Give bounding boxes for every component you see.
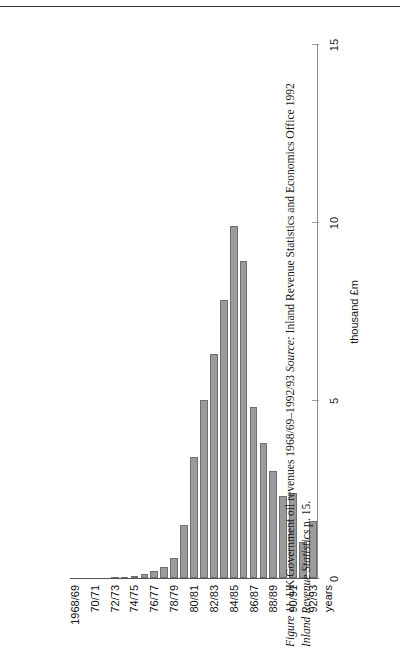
category-label-70-71: 70/71 xyxy=(89,585,101,613)
category-label-82-83: 82/83 xyxy=(208,585,220,613)
category-label-76-77: 76/77 xyxy=(148,585,160,613)
category-label-74-75: 74/75 xyxy=(128,585,140,613)
figure-number: Figure 11 xyxy=(284,602,297,647)
bar-84-85 xyxy=(230,226,238,578)
bar-83-84 xyxy=(220,300,228,578)
category-axis-title: years xyxy=(322,585,334,612)
bar-74-75 xyxy=(131,576,139,578)
source-page: p. 15. xyxy=(300,501,313,527)
bar-72-73 xyxy=(111,577,119,578)
bar-73-74 xyxy=(121,577,129,578)
category-label-80-81: 80/81 xyxy=(188,585,200,613)
value-axis-title: thousand £m xyxy=(348,280,360,344)
category-axis-line xyxy=(70,578,319,579)
figure-title: UK Government oil revenues 1968/69–1992/… xyxy=(284,375,297,597)
category-label-1968-69: 1968/69 xyxy=(69,585,81,625)
page-top-rule xyxy=(0,6,400,7)
source-publication: Inland Revenue Statistics xyxy=(300,530,313,647)
category-label-78-79: 78/79 xyxy=(168,585,180,613)
caption-line-1: Figure 11 UK Government oil revenues 196… xyxy=(283,0,299,647)
source-label: Source: xyxy=(284,336,297,372)
category-label-88-89: 88/89 xyxy=(267,585,279,613)
plot-area: 051015 thousand £m 1968/6970/7172/7374/7… xyxy=(70,45,318,579)
bar-85-86 xyxy=(240,261,248,578)
bar-77-78 xyxy=(160,567,168,578)
bar-series xyxy=(70,45,317,578)
bar-86-87 xyxy=(250,407,258,578)
bar-82-83 xyxy=(210,354,218,578)
bar-76-77 xyxy=(150,571,158,578)
value-tick-label-5: 5 xyxy=(328,398,340,404)
bar-75-76 xyxy=(141,574,149,578)
bar-80-81 xyxy=(190,457,198,578)
source-text: Inland Revenue Statistics and Economics … xyxy=(284,83,297,333)
category-label-86-87: 86/87 xyxy=(248,585,260,613)
value-tick-label-15: 15 xyxy=(328,39,340,51)
bar-79-80 xyxy=(180,525,188,578)
bar-81-82 xyxy=(200,400,208,578)
bar-78-79 xyxy=(170,558,178,578)
bar-87-88 xyxy=(260,443,268,578)
caption-line-2: Inland Revenue Statistics p. 15. xyxy=(299,0,315,647)
figure-caption-block: Figure 11 UK Government oil revenues 196… xyxy=(283,0,319,647)
category-label-72-73: 72/73 xyxy=(109,585,121,613)
value-tick-label-0: 0 xyxy=(328,576,340,582)
category-label-84-85: 84/85 xyxy=(228,585,240,613)
bar-88-89 xyxy=(269,471,277,578)
value-tick-label-10: 10 xyxy=(328,217,340,229)
